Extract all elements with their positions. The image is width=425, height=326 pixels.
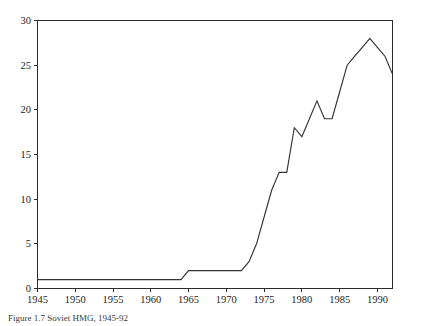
x-tick-label: 1985 [329, 294, 350, 305]
x-tick-label: 1990 [367, 294, 388, 305]
y-tick-label: 10 [21, 194, 32, 205]
figure-container: 051015202530 194519501955196019651970197… [0, 0, 425, 326]
y-tick-label: 0 [26, 283, 31, 294]
chart-series-group [38, 38, 393, 279]
y-tick-label: 15 [21, 149, 32, 160]
x-tick-label: 1980 [291, 294, 312, 305]
x-axis-ticks [38, 289, 378, 293]
y-axis-ticks [34, 21, 38, 289]
line-chart: 051015202530 194519501955196019651970197… [0, 0, 425, 326]
y-tick-label: 20 [21, 104, 32, 115]
x-tick-label: 1960 [140, 294, 161, 305]
x-axis-tick-labels: 1945195019551960196519701975198019851990 [27, 294, 388, 305]
axis-frame [38, 21, 393, 289]
y-tick-label: 30 [21, 15, 32, 26]
x-tick-label: 1945 [27, 294, 48, 305]
figure-caption: Figure 1.7 Soviet HMG, 1945-92 [8, 313, 418, 324]
y-tick-label: 25 [21, 60, 32, 71]
data-series-line [38, 38, 393, 279]
x-tick-label: 1950 [65, 294, 86, 305]
x-tick-label: 1970 [216, 294, 237, 305]
y-tick-label: 5 [26, 238, 31, 249]
x-tick-label: 1975 [254, 294, 275, 305]
x-tick-label: 1955 [103, 294, 124, 305]
chart-axes [38, 21, 393, 289]
y-axis-tick-labels: 051015202530 [21, 15, 32, 294]
x-tick-label: 1965 [178, 294, 199, 305]
